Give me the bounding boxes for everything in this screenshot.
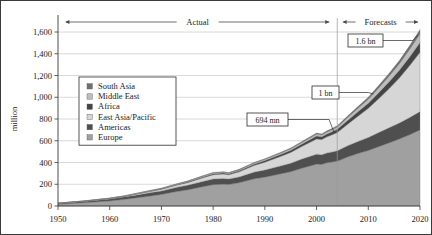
y-tick-label: 200: [39, 179, 52, 189]
callout-1bn-leader: [339, 93, 373, 94]
x-tick-label: 2020: [412, 214, 429, 224]
y-tick-label: 400: [39, 158, 52, 168]
chart-frame: 02004006008001,0001,2001,4001,600 195019…: [0, 0, 432, 235]
legend-label-europe: Europe: [98, 132, 123, 142]
x-tick-label: 1950: [50, 214, 67, 224]
legend-swatch-middle-east: [87, 94, 92, 99]
period-brackets: ActualForecasts: [66, 17, 418, 27]
x-tick-label: 1970: [153, 214, 170, 224]
legend-label-africa: Africa: [98, 101, 120, 111]
forecasts-label: Forecasts: [365, 17, 397, 27]
legend-swatch-europe: [87, 135, 92, 140]
callout-16bn-label: 1.6 bn: [356, 37, 376, 46]
x-tick-label: 1980: [205, 214, 222, 224]
legend-swatch-americas: [87, 124, 92, 129]
legend-label-middle-east: Middle East: [98, 91, 140, 101]
callout-16bn-leader: [383, 35, 418, 40]
actual-label: Actual: [186, 17, 209, 27]
y-tick-label: 1,400: [33, 49, 52, 59]
legend-label-south-asia: South Asia: [98, 81, 135, 91]
legend-label-east-asia-pacific: East Asia/Pacific: [98, 112, 156, 122]
y-axis-title: million: [9, 106, 19, 131]
x-tick-label: 2000: [308, 214, 325, 224]
y-tick-label: 1,000: [33, 92, 52, 102]
x-axis-ticks: 19501960197019801990200020102020: [50, 206, 429, 224]
legend-swatch-east-asia-pacific: [87, 114, 92, 119]
chart-legend: South AsiaMiddle EastAfricaEast Asia/Pac…: [79, 77, 176, 145]
x-tick-label: 2010: [360, 214, 377, 224]
callout-1bn-label: 1 bn: [319, 89, 333, 98]
legend-label-americas: Americas: [98, 122, 131, 132]
legend-swatch-south-asia: [87, 84, 92, 89]
y-tick-label: 0: [48, 201, 52, 211]
x-tick-label: 1960: [101, 214, 118, 224]
population-stacked-area-chart: 02004006008001,0001,2001,4001,600 195019…: [1, 1, 432, 235]
y-axis-ticks: 02004006008001,0001,2001,4001,600: [33, 27, 58, 211]
y-tick-label: 800: [39, 114, 52, 124]
legend-swatch-africa: [87, 104, 92, 109]
y-axis-title-label: million: [9, 106, 19, 131]
callout-694mn-label: 694 mn: [255, 116, 279, 125]
y-tick-label: 1,200: [33, 71, 52, 81]
x-tick-label: 1990: [256, 214, 273, 224]
y-tick-label: 1,600: [33, 27, 52, 37]
y-tick-label: 600: [39, 136, 52, 146]
